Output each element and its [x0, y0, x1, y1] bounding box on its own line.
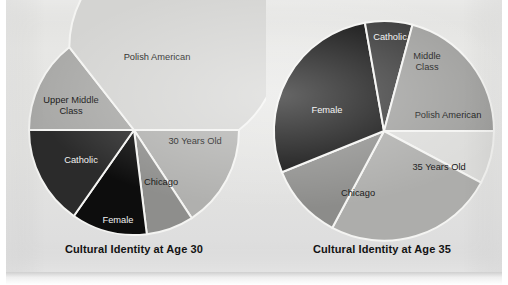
- caption-age-35: Cultural Identity at Age 35: [262, 243, 502, 255]
- pie-chart-age-30: Polish American Upper Middle Class Catho…: [6, 0, 266, 272]
- pie-chart-age-35: Catholic Middle Class Polish American 35…: [262, 0, 502, 272]
- page-bottom-edge: [6, 272, 502, 285]
- pie-slices-age-30: [29, 0, 266, 235]
- page-right-edge: [502, 0, 508, 285]
- scanned-paper-background: Polish American Upper Middle Class Catho…: [6, 0, 502, 272]
- caption-age-30: Cultural Identity at Age 30: [6, 243, 262, 255]
- pie-chart-age-35-svg: [262, 0, 502, 250]
- figure-page: Polish American Upper Middle Class Catho…: [0, 0, 508, 285]
- pie-chart-age-30-svg: [6, 0, 266, 250]
- pie-slices-age-35: [274, 21, 494, 241]
